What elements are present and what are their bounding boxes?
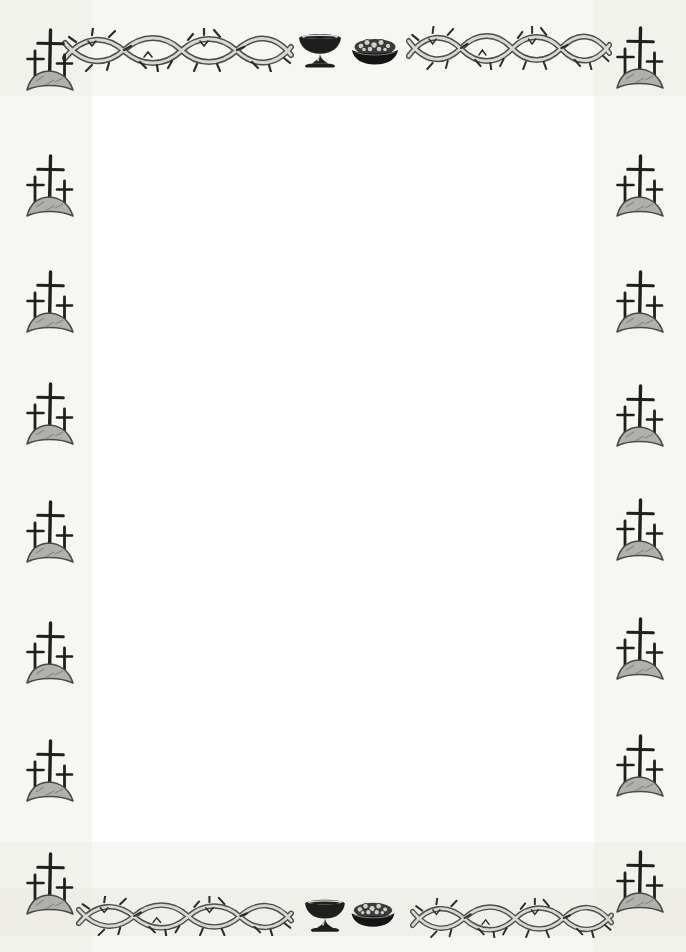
- bordered-page: [0, 0, 686, 952]
- bread-bowl-icon: [349, 901, 397, 929]
- calvary-crosses-motif: [22, 737, 78, 803]
- calvary-crosses-motif: [612, 732, 668, 798]
- calvary-crosses-motif: [612, 382, 668, 448]
- communion-chalice-icon: [302, 896, 348, 934]
- calvary-crosses-motif: [22, 152, 78, 218]
- calvary-crosses-motif: [612, 24, 668, 90]
- calvary-crosses-motif: [22, 498, 78, 564]
- calvary-crosses-motif: [22, 619, 78, 685]
- calvary-crosses-motif: [22, 268, 78, 334]
- calvary-crosses-motif: [612, 496, 668, 562]
- page-content-blank: [92, 100, 594, 842]
- calvary-crosses-motif: [22, 26, 78, 92]
- calvary-crosses-motif: [22, 850, 78, 916]
- calvary-crosses-motif: [612, 615, 668, 681]
- thorn-vine-top-left: [62, 28, 294, 72]
- border-band-left: [0, 0, 92, 952]
- calvary-crosses-motif: [612, 152, 668, 218]
- bread-bowl-icon: [350, 37, 400, 67]
- thorn-vine-bottom-left: [76, 896, 294, 936]
- border-band-right: [594, 0, 686, 952]
- calvary-crosses-motif: [22, 380, 78, 446]
- calvary-crosses-motif: [612, 848, 668, 914]
- thorn-vine-bottom-right: [410, 898, 614, 938]
- calvary-crosses-motif: [612, 268, 668, 334]
- thorn-vine-top-right: [406, 26, 612, 70]
- communion-chalice-icon: [296, 30, 344, 70]
